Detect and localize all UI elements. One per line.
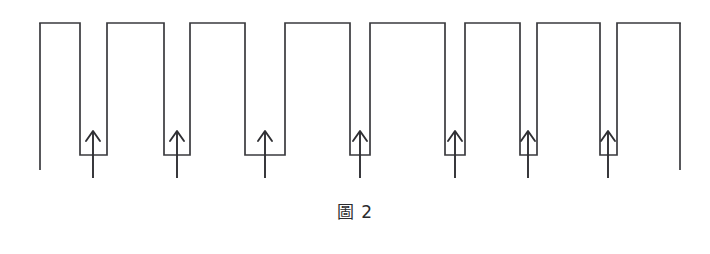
- square-wave-svg: [0, 0, 710, 195]
- figure-drawing-area: [0, 0, 710, 195]
- figure-page: 圖 2: [0, 0, 710, 254]
- figure-caption: 圖 2: [0, 200, 710, 224]
